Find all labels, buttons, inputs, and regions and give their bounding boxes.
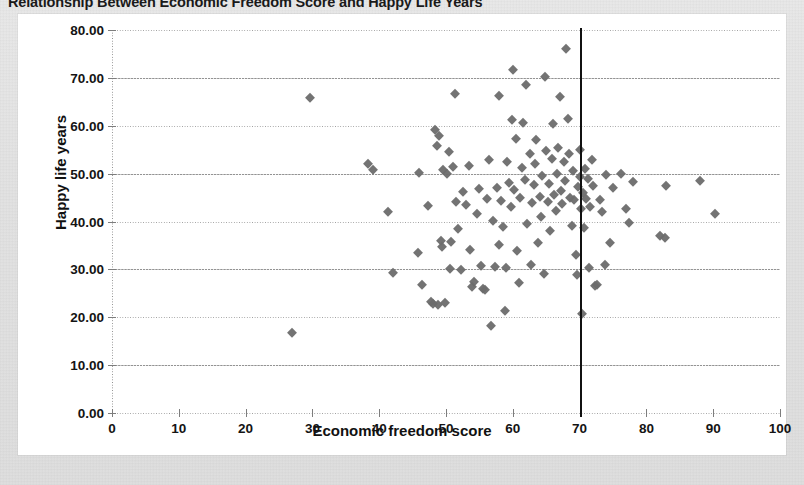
y-axis-tick-label: 30.00	[70, 262, 104, 277]
x-axis-tick	[446, 409, 447, 417]
scatter-point	[531, 135, 541, 145]
scatter-point	[552, 168, 562, 178]
chart-title: Relationship Between Economic Freedom Sc…	[8, 0, 708, 13]
x-axis-tick-label: 70	[572, 421, 587, 436]
scatter-point	[544, 178, 554, 188]
gridline	[112, 317, 780, 318]
x-axis-tick-label: 40	[372, 421, 387, 436]
scatter-point	[594, 195, 604, 205]
scatter-point	[445, 264, 455, 274]
scatter-point	[621, 204, 631, 214]
scatter-point	[494, 90, 504, 100]
y-axis-tick-label: 50.00	[70, 166, 104, 181]
x-axis-tick	[513, 409, 514, 417]
y-axis-tick-label: 40.00	[70, 214, 104, 229]
scatter-point	[608, 183, 618, 193]
x-axis-tick-label: 30	[305, 421, 320, 436]
plot-panel: Happy life years Economic freedom score …	[18, 14, 786, 455]
x-axis-tick-label: 50	[438, 421, 453, 436]
scatter-point	[545, 225, 555, 235]
scatter-point	[488, 215, 498, 225]
scatter-point	[413, 247, 423, 257]
scatter-point	[506, 202, 516, 212]
gridline	[112, 78, 780, 79]
reference-line-70	[580, 28, 582, 417]
scatter-point	[443, 147, 453, 157]
scatter-point	[540, 72, 550, 82]
scatter-point	[496, 196, 506, 206]
scatter-point	[521, 79, 531, 89]
x-axis-tick-label: 60	[505, 421, 520, 436]
x-axis-tick	[646, 409, 647, 417]
y-axis-tick-label: 80.00	[70, 23, 104, 38]
y-axis-title: Happy life years	[52, 93, 69, 253]
x-axis-tick	[179, 409, 180, 417]
scatter-point	[709, 209, 719, 219]
scatter-point	[548, 119, 558, 129]
y-axis-tick-label: 70.00	[70, 70, 104, 85]
y-axis-tick	[108, 222, 116, 223]
scatter-point	[600, 259, 610, 269]
y-axis-tick	[108, 30, 116, 31]
scatter-point	[566, 221, 576, 231]
scatter-point	[586, 155, 596, 165]
scatter-point	[502, 157, 512, 167]
scatter-point	[554, 92, 564, 102]
scatter-point	[562, 113, 572, 123]
scatter-point	[437, 242, 447, 252]
scatter-point	[508, 65, 518, 75]
scatter-point	[661, 181, 671, 191]
y-axis-tick	[108, 269, 116, 270]
scatter-point	[538, 269, 548, 279]
scatter-point	[569, 195, 579, 205]
x-axis-title: Economic freedom score	[18, 422, 786, 439]
scatter-point	[449, 89, 459, 99]
scatter-point	[542, 197, 552, 207]
gridline	[112, 30, 780, 31]
scatter-point	[287, 327, 297, 337]
scatter-point	[514, 278, 524, 288]
x-axis-tick-label: 80	[639, 421, 654, 436]
scatter-point	[431, 141, 441, 151]
scatter-point	[536, 211, 546, 221]
y-axis-tick-label: 20.00	[70, 310, 104, 325]
scatter-point	[434, 131, 444, 141]
y-axis-tick-label: 0.00	[78, 406, 104, 421]
scatter-point	[512, 245, 522, 255]
scatter-point	[616, 169, 626, 179]
scatter-point	[695, 176, 705, 186]
gridline	[112, 222, 780, 223]
scatter-point	[500, 305, 510, 315]
scatter-point	[423, 200, 433, 210]
y-axis-tick-label: 60.00	[70, 118, 104, 133]
x-axis-tick-label: 10	[171, 421, 186, 436]
scatter-point	[501, 263, 511, 273]
y-axis-tick	[108, 365, 116, 366]
scatter-point	[453, 224, 463, 234]
plot-area: 0.0010.0020.0030.0040.0050.0060.0070.008…	[112, 30, 780, 413]
y-axis-tick	[108, 78, 116, 79]
gridline	[112, 126, 780, 127]
scatter-point	[553, 143, 563, 153]
x-axis-tick	[112, 409, 113, 417]
scatter-point	[560, 176, 570, 186]
scatter-point	[524, 149, 534, 159]
scatter-point	[605, 238, 615, 248]
x-axis-tick	[713, 409, 714, 417]
scatter-point	[455, 265, 465, 275]
y-axis-tick-label: 10.00	[70, 358, 104, 373]
scatter-point	[461, 200, 471, 210]
y-axis-tick	[108, 174, 116, 175]
chart-screenshot: Relationship Between Economic Freedom Sc…	[0, 0, 804, 485]
x-axis-tick	[246, 409, 247, 417]
scatter-point	[471, 209, 481, 219]
scatter-point	[446, 237, 456, 247]
scatter-point	[304, 92, 314, 102]
scatter-point	[601, 169, 611, 179]
scatter-point	[498, 222, 508, 232]
scatter-point	[528, 180, 538, 190]
scatter-point	[383, 207, 393, 217]
x-axis-tick-label: 20	[238, 421, 253, 436]
scatter-point	[451, 197, 461, 207]
scatter-point	[463, 161, 473, 171]
